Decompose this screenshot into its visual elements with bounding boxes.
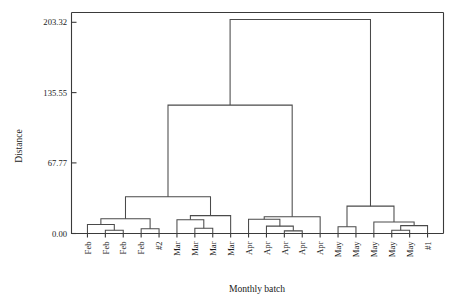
x-tick-label: Apr [262,241,272,255]
dendrogram-link [190,216,230,234]
dendrogram-link [195,228,213,233]
x-tick-label: Apr [280,241,290,255]
x-tick-label: Mar [226,241,236,255]
x-axis-ticks [87,234,427,238]
dendrogram-plot: 203.32 135.55 67.77 0.00 Distance FebFeb… [0,0,465,301]
plot-frame [72,13,444,234]
x-tick-label: Apr [315,241,325,255]
dendrogram-link [177,220,204,234]
axis-left-bottom [72,13,444,234]
x-tick-label: Apr [297,241,307,255]
y-tick-label-203: 203.32 [43,17,67,27]
dendrogram-link [230,20,370,207]
x-tick-label: Mar [190,241,200,255]
dendrogram-link [266,226,293,233]
y-tick-label-135: 135.55 [43,88,67,98]
dendrogram-link [338,227,356,234]
dendrogram-link [347,206,394,227]
x-tick-label: May [351,241,361,257]
x-tick-label: May [369,241,379,257]
dendrogram-figure: 203.32 135.55 67.77 0.00 Distance FebFeb… [0,0,465,301]
y-tick-label-67: 67.77 [48,158,68,168]
x-tick-label: Feb [83,242,93,255]
x-tick-label: May [405,241,415,257]
dendrogram-link [141,229,159,234]
dendrogram-link [401,226,428,234]
x-tick-label: May [333,241,343,257]
x-tick-label: Feb [118,242,128,255]
dendrogram-link [374,222,414,234]
x-tick-label: Mar [208,241,218,255]
x-tick-label: Feb [101,242,111,255]
dendrogram-link [101,219,150,229]
x-tick-label: May [387,241,397,257]
x-tick-label: #1 [423,242,433,251]
x-tick-label: Feb [136,242,146,255]
dendrogram-links [87,20,427,234]
x-tick-label: Apr [244,241,254,255]
y-axis-title: Distance [13,129,24,163]
x-tick-label: #2 [154,242,164,251]
x-tick-label: Mar [172,241,182,255]
y-tick-label-0: 0.00 [52,229,67,239]
dendrogram-link [168,105,292,217]
x-axis-title: Monthly batch [229,283,285,294]
dendrogram-link [87,225,114,234]
x-axis-leaf-labels: FebFebFebFeb#2MarMarMarMarAprAprAprAprAp… [83,241,433,257]
